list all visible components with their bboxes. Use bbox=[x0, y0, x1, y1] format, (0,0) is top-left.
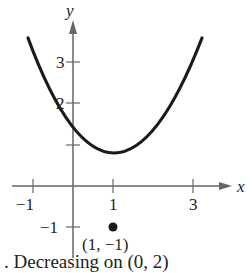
x-tick-label-neg1: −1 bbox=[16, 195, 34, 214]
y-tick-label-3: 3 bbox=[56, 53, 65, 72]
caption-text: . Decreasing on (0, 2) bbox=[4, 251, 169, 273]
parabola-curve bbox=[28, 38, 202, 153]
x-axis-label: x bbox=[236, 177, 245, 196]
y-axis-arrow-icon bbox=[69, 20, 77, 34]
x-axis-arrow-icon bbox=[219, 182, 232, 190]
x-tick-label-1: 1 bbox=[109, 195, 118, 214]
x-tick-label-3: 3 bbox=[189, 195, 198, 214]
y-axis-label: y bbox=[64, 1, 74, 20]
y-tick-label-2: 2 bbox=[56, 94, 65, 113]
y-tick-label-neg1: −1 bbox=[40, 218, 58, 237]
vertex-point bbox=[109, 223, 118, 232]
